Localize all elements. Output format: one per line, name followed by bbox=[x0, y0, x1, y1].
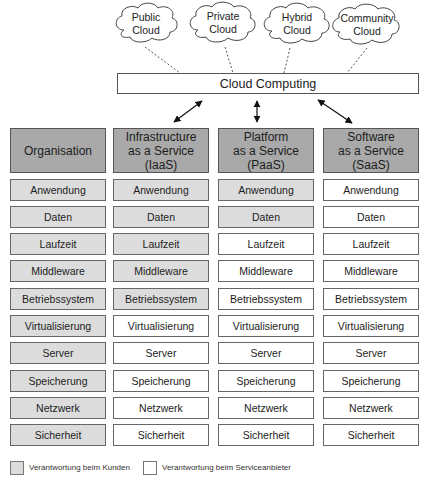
layer-cell: Middleware bbox=[218, 260, 314, 282]
layer-cell: Betriebssystem bbox=[10, 288, 106, 310]
layer-cell: Server bbox=[323, 342, 419, 364]
legend-label-provider: Verantwortung beim Serviceanbieter bbox=[162, 463, 291, 472]
layer-cell: Betriebssystem bbox=[218, 288, 314, 310]
layer-cell: Virtualisierung bbox=[113, 315, 209, 337]
layer-cell: Sicherheit bbox=[113, 424, 209, 446]
column-header-line: (PaaS) bbox=[233, 158, 299, 172]
cloud-label-line2: Cloud bbox=[267, 24, 327, 37]
column-header: Organisation bbox=[10, 128, 106, 173]
layer-cell: Laufzeit bbox=[113, 233, 209, 255]
layer-cell: Anwendung bbox=[218, 179, 314, 201]
layer-cell: Virtualisierung bbox=[10, 315, 106, 337]
layer-cell: Sicherheit bbox=[10, 424, 106, 446]
column-header: Softwareas a Service(SaaS) bbox=[323, 128, 419, 173]
column-header-line: as a Service bbox=[338, 144, 404, 158]
layer-cell: Anwendung bbox=[113, 179, 209, 201]
double-arrows bbox=[174, 100, 352, 123]
layer-cell: Laufzeit bbox=[323, 233, 419, 255]
layer-cell: Sicherheit bbox=[218, 424, 314, 446]
layer-cell: Virtualisierung bbox=[323, 315, 419, 337]
layer-cell: Speicherung bbox=[218, 370, 314, 392]
layer-cell: Speicherung bbox=[323, 370, 419, 392]
legend-provider: Verantwortung beim Serviceanbieter bbox=[143, 460, 291, 475]
layer-cell: Netzwerk bbox=[323, 397, 419, 419]
legend-label-customer: Verantwortung beim Kunden bbox=[29, 463, 130, 472]
layer-cell: Netzwerk bbox=[113, 397, 209, 419]
cloud-label-line1: Hybrid bbox=[267, 11, 327, 24]
column-header-line: (SaaS) bbox=[338, 158, 404, 172]
layer-cell: Virtualisierung bbox=[218, 315, 314, 337]
column-header-line: as a Service bbox=[126, 144, 197, 158]
layer-cell: Sicherheit bbox=[323, 424, 419, 446]
layer-cell: Daten bbox=[323, 206, 419, 228]
layer-cell: Speicherung bbox=[10, 370, 106, 392]
column-header-line: Infrastructure bbox=[126, 130, 197, 144]
legend-swatch-customer bbox=[10, 461, 24, 475]
cloud-label-community: Community Cloud bbox=[334, 12, 400, 38]
layer-cell: Netzwerk bbox=[218, 397, 314, 419]
layer-cell: Server bbox=[113, 342, 209, 364]
cloud-label-line2: Cloud bbox=[334, 25, 400, 38]
column-header-line: as a Service bbox=[233, 144, 299, 158]
layer-cell: Middleware bbox=[113, 260, 209, 282]
cloud-label-public: Public Cloud bbox=[118, 11, 174, 37]
layer-cell: Speicherung bbox=[113, 370, 209, 392]
column-header-line: Platform bbox=[233, 130, 299, 144]
layer-cell: Anwendung bbox=[10, 179, 106, 201]
layer-cell: Betriebssystem bbox=[323, 288, 419, 310]
column-header: Platformas a Service(PaaS) bbox=[218, 128, 314, 173]
layer-cell: Daten bbox=[113, 206, 209, 228]
layer-cell: Laufzeit bbox=[218, 233, 314, 255]
column-header-line: (IaaS) bbox=[126, 158, 197, 172]
layer-cell: Server bbox=[218, 342, 314, 364]
cloud-label-line1: Community bbox=[334, 12, 400, 25]
cloud-computing-box: Cloud Computing bbox=[117, 73, 419, 94]
cloud-label-line2: Cloud bbox=[193, 23, 253, 36]
legend-customer: Verantwortung beim Kunden bbox=[10, 460, 130, 475]
cloud-computing-label: Cloud Computing bbox=[220, 77, 317, 91]
cloud-label-private: Private Cloud bbox=[193, 10, 253, 36]
cloud-label-line2: Cloud bbox=[118, 24, 174, 37]
layer-cell: Laufzeit bbox=[10, 233, 106, 255]
layer-cell: Betriebssystem bbox=[113, 288, 209, 310]
layer-cell: Middleware bbox=[323, 260, 419, 282]
layer-cell: Daten bbox=[218, 206, 314, 228]
layer-cell: Daten bbox=[10, 206, 106, 228]
dashed-connectors bbox=[145, 47, 367, 73]
layer-cell: Server bbox=[10, 342, 106, 364]
column-header-line: Organisation bbox=[24, 144, 92, 158]
legend-swatch-provider bbox=[143, 461, 157, 475]
cloud-label-line1: Public bbox=[118, 11, 174, 24]
column-header-line: Software bbox=[338, 130, 404, 144]
layer-cell: Anwendung bbox=[323, 179, 419, 201]
column-header: Infrastructureas a Service(IaaS) bbox=[113, 128, 209, 173]
cloud-label-line1: Private bbox=[193, 10, 253, 23]
cloud-label-hybrid: Hybrid Cloud bbox=[267, 11, 327, 37]
layer-cell: Netzwerk bbox=[10, 397, 106, 419]
layer-cell: Middleware bbox=[10, 260, 106, 282]
